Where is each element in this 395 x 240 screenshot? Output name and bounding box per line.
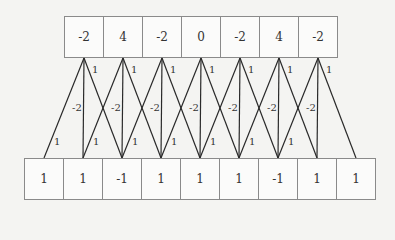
weight-label: 1	[92, 64, 98, 75]
weight-label: 1	[131, 64, 137, 75]
weight-label: -2	[150, 102, 160, 113]
weight-label: -2	[267, 102, 277, 113]
weight-label: 1	[210, 136, 216, 147]
weight-label: 1	[54, 136, 60, 147]
weight-label: -2	[306, 102, 316, 113]
input-cell: 1	[180, 158, 220, 200]
input-cell: 1	[219, 158, 259, 200]
weight-label: 1	[132, 136, 138, 147]
weight-label: 1	[326, 64, 332, 75]
input-cell: 1	[63, 158, 103, 200]
weight-label: 1	[248, 64, 254, 75]
weight-label: 1	[93, 136, 99, 147]
input-cell: -1	[102, 158, 142, 200]
input-cell: 1	[297, 158, 337, 200]
weight-label: 1	[249, 136, 255, 147]
weight-label: -2	[72, 102, 82, 113]
weight-label: -2	[111, 102, 121, 113]
weight-label: 1	[209, 64, 215, 75]
weight-label: -2	[189, 102, 199, 113]
input-cell: 1	[24, 158, 64, 200]
connection-line	[239, 58, 240, 158]
weight-label: 1	[170, 64, 176, 75]
connection-line	[278, 58, 279, 158]
input-cell: 1	[141, 158, 181, 200]
weight-label: 1	[171, 136, 177, 147]
connection-line	[83, 58, 84, 158]
input-row: 1 1 -1 1 1 1 -1 1 1	[24, 158, 376, 200]
weight-label: 1	[287, 64, 293, 75]
connection-line	[317, 58, 318, 158]
connection-line	[200, 58, 201, 158]
input-cell: -1	[258, 158, 298, 200]
connection-line	[122, 58, 123, 158]
connection-line	[318, 58, 356, 158]
connection-line	[161, 58, 162, 158]
weight-label: 1	[288, 136, 294, 147]
weight-label: -2	[228, 102, 238, 113]
input-cell: 1	[336, 158, 376, 200]
